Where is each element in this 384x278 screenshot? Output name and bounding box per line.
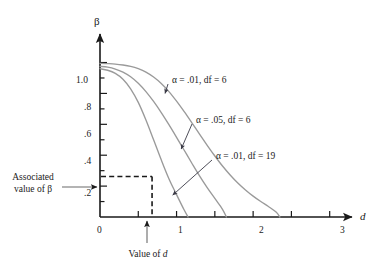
- annotation-arrows: [165, 84, 212, 195]
- power-curve-figure: β d 1.0 .8 .6 .4 .2 0 1 2 3 α = .01, df …: [0, 0, 384, 278]
- value-of-d-text: Value of: [128, 249, 162, 259]
- beta-vs-d-chart: [0, 0, 384, 278]
- curve-series-2: [100, 69, 188, 217]
- callout-arrows: [62, 187, 147, 243]
- annotation-alpha01-df6: α = .01, df = 6: [172, 76, 226, 86]
- curve-series-0: [100, 63, 280, 217]
- annotation-alpha01-df19: α = .01, df = 19: [216, 152, 275, 162]
- curve-series-1: [100, 66, 226, 217]
- y-axis-ticks: [100, 63, 107, 202]
- associated-beta-line2: value of β: [14, 184, 52, 194]
- power-curves: [100, 63, 280, 217]
- associated-beta-callout: Associated value of β: [4, 172, 62, 196]
- y-tick-label-p6: .6: [84, 130, 91, 140]
- y-tick-label-p4: .4: [84, 157, 91, 167]
- y-tick-label-p8: .8: [84, 103, 91, 113]
- annotation-arrow-1: [181, 124, 192, 149]
- value-of-d-italic: d: [163, 249, 168, 259]
- y-tick-label-p2: .2: [84, 189, 91, 199]
- x-tick-label-0: 0: [97, 226, 102, 236]
- x-axis-label: d: [360, 211, 366, 222]
- x-tick-label-1: 1: [178, 226, 183, 236]
- annotation-alpha05-df6: α = .05, df = 6: [196, 116, 250, 126]
- x-tick-label-2: 2: [259, 226, 264, 236]
- y-tick-label-1p0: 1.0: [76, 76, 88, 86]
- associated-beta-line1: Associated: [12, 172, 54, 182]
- x-tick-label-3: 3: [340, 226, 345, 236]
- reference-dashed-lines: [101, 177, 152, 217]
- axes: [100, 34, 352, 217]
- x-axis-ticks: [138, 211, 329, 217]
- y-axis-label: β: [94, 16, 100, 27]
- value-of-d-callout: Value of d: [112, 249, 184, 261]
